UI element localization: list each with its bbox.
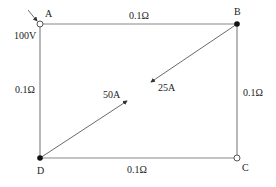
- resistance-dc-label: 0.1Ω: [127, 164, 147, 175]
- resistance-ab-label: 0.1Ω: [129, 10, 149, 21]
- load-arrow-25a-icon: [151, 24, 237, 82]
- load-25a-label: 25A: [158, 82, 176, 93]
- node-c-open-icon: [234, 155, 240, 161]
- node-d-label: D: [37, 165, 44, 176]
- resistance-ad-label: 0.1Ω: [15, 84, 35, 95]
- load-arrow-50a-icon: [40, 101, 127, 158]
- resistance-bc-label: 0.1Ω: [243, 87, 263, 98]
- node-b-label: B: [234, 6, 241, 17]
- load-50a-label: 50A: [103, 89, 121, 100]
- circuit-diagram: A B C D 0.1Ω 0.1Ω 0.1Ω 0.1Ω 100V 25A 50A: [0, 0, 276, 187]
- node-c-label: C: [242, 162, 249, 173]
- node-a-open-icon: [37, 21, 43, 27]
- source-voltage-label: 100V: [14, 30, 37, 41]
- node-a-label: A: [45, 8, 53, 19]
- node-b-dot-icon: [234, 21, 240, 27]
- node-d-dot-icon: [37, 155, 43, 161]
- source-arrow-icon: [28, 10, 37, 21]
